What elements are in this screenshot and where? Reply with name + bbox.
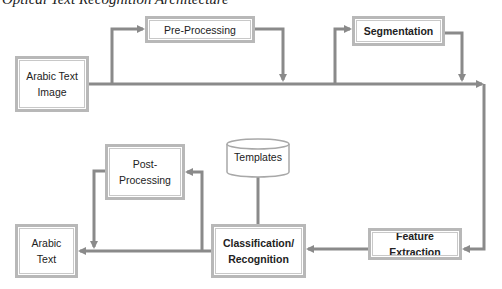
templates-label: Templates [234, 151, 282, 163]
to-postprocessing-arrow [187, 172, 202, 251]
to-preprocessing-arrow [112, 29, 143, 84]
output-node: Arabic Text [15, 224, 78, 278]
segmentation-node: Segmentation [352, 16, 445, 46]
feature-extraction-label: Feature Extraction [371, 228, 459, 260]
to-segmentation-arrow [335, 29, 350, 84]
preprocessing-node: Pre-Processing [145, 16, 255, 43]
preprocessing-label: Pre-Processing [164, 22, 236, 38]
templates-node: Templates [227, 151, 289, 163]
to-feature-extraction-arrow [464, 84, 484, 249]
input-label: Arabic Text Image [26, 68, 78, 100]
classification-label: Classification/ Recognition [223, 235, 294, 267]
from-postprocessing-arrow [94, 171, 105, 247]
feature-extraction-node: Feature Extraction [368, 228, 462, 260]
postprocessing-node: Post- Processing [105, 144, 185, 200]
input-node: Arabic Text Image [15, 56, 89, 112]
classification-node: Classification/ Recognition [211, 224, 306, 278]
output-label: Arabic Text [32, 235, 62, 267]
from-preprocessing-arrow [255, 29, 283, 80]
from-segmentation-arrow [445, 33, 462, 80]
segmentation-label: Segmentation [364, 23, 433, 39]
postprocessing-label: Post- Processing [119, 156, 171, 188]
